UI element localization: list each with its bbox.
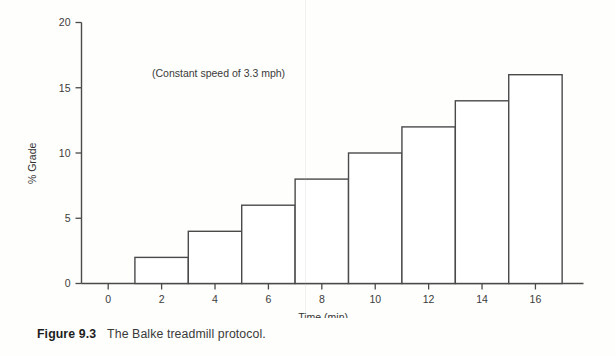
x-axis-tick-label: 14 [476, 293, 488, 305]
figure-container: 051015200246810121416Time (min)% Grade(C… [0, 0, 615, 356]
x-axis-tick-label: 16 [530, 293, 542, 305]
figure-caption-label: Figure 9.3 [37, 327, 96, 341]
x-axis-tick-label: 2 [159, 293, 165, 305]
bar [402, 127, 455, 284]
figure-caption: Figure 9.3The Balke treadmill protocol. [37, 327, 597, 341]
y-axis-tick-label: 0 [65, 277, 71, 289]
y-axis-tick-label: 10 [59, 147, 71, 159]
bar [349, 153, 402, 284]
y-axis-tick-label: 15 [59, 82, 71, 94]
figure-caption-text: The Balke treadmill protocol. [107, 327, 266, 341]
x-axis-tick-label: 6 [265, 293, 271, 305]
x-axis-tick-label: 0 [105, 293, 111, 305]
scan-seam-artifact [305, 0, 306, 318]
y-axis-tick-label: 20 [59, 16, 71, 28]
bar [455, 101, 508, 284]
x-axis-tick-label: 4 [212, 293, 218, 305]
bar [295, 179, 348, 283]
y-axis-title: % Grade [26, 143, 38, 185]
chart-area: 051015200246810121416Time (min)% Grade(C… [0, 0, 615, 318]
y-axis-tick-label: 5 [65, 212, 71, 224]
bar [188, 231, 241, 283]
bar [135, 257, 188, 283]
chart-annotation: (Constant speed of 3.3 mph) [152, 67, 285, 79]
x-axis-tick-label: 8 [319, 293, 325, 305]
balke-protocol-bar-chart: 051015200246810121416Time (min)% Grade(C… [0, 0, 615, 318]
x-axis-tick-label: 10 [369, 293, 381, 305]
x-axis-tick-label: 12 [423, 293, 435, 305]
bar [509, 75, 562, 284]
bar [242, 205, 295, 283]
